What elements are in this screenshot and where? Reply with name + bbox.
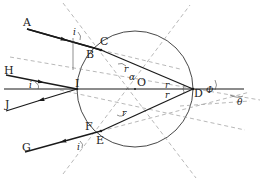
angle-r-D-top: r (165, 80, 170, 90)
angle-i-mid: i (29, 80, 32, 90)
angle-i-bottom: i (77, 142, 80, 152)
angle-i-top: i (73, 27, 76, 37)
label-E: E (96, 134, 104, 147)
label-B: B (86, 48, 94, 61)
label-J: J (4, 98, 9, 111)
construction-lines (10, 3, 260, 178)
angle-r-E: r (122, 108, 127, 118)
label-I: I (75, 77, 79, 90)
angle-alpha: α (129, 72, 135, 82)
angle-r-D-bottom: r (165, 90, 170, 100)
label-A: A (22, 16, 32, 29)
label-C: C (100, 35, 108, 48)
angle-phi: Φ (206, 85, 213, 95)
label-F: F (85, 120, 93, 133)
droplet-ray-diagram: A B C D E F G H I J O i i i r r r r α Φ … (0, 0, 263, 178)
label-G: G (22, 141, 31, 154)
label-H: H (4, 64, 14, 77)
label-D: D (194, 87, 203, 100)
vertex-dots (76, 49, 195, 133)
label-O: O (137, 76, 146, 89)
angle-theta: θ (237, 97, 243, 107)
